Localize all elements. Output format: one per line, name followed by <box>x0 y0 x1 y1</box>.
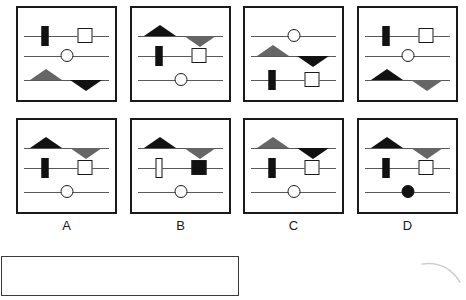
faint-curve-mark <box>420 252 466 298</box>
slider-handle[interactable] <box>383 168 390 178</box>
triangle-up-black-handle-icon[interactable] <box>371 137 403 148</box>
triangle-up-gray-handle-icon[interactable] <box>257 45 289 56</box>
triangle-up-black-handle-icon[interactable] <box>371 69 403 80</box>
slider-track[interactable] <box>251 80 336 81</box>
bar-black-handle-icon[interactable] <box>42 26 49 46</box>
bar-black-handle-icon[interactable] <box>269 70 276 90</box>
panel-content <box>245 8 342 100</box>
slider-handle[interactable] <box>184 148 216 159</box>
slider-handle[interactable] <box>156 168 163 178</box>
triangle-up-gray-handle-icon[interactable] <box>257 137 289 148</box>
slider-track[interactable] <box>365 36 450 37</box>
circle-white-handle-icon[interactable] <box>287 185 300 198</box>
slider-handle[interactable] <box>297 56 329 67</box>
triangle-down-gray-handle-icon[interactable] <box>411 80 443 91</box>
square-white-handle-icon[interactable] <box>419 28 434 43</box>
slider-handle[interactable] <box>60 192 73 199</box>
square-white-handle-icon[interactable] <box>192 48 207 63</box>
triangle-up-gray-handle-icon[interactable] <box>30 69 62 80</box>
slider-handle[interactable] <box>383 36 390 46</box>
triangle-down-gray-handle-icon[interactable] <box>184 148 216 159</box>
option-label-b: B <box>130 218 231 233</box>
bar-white-handle-icon[interactable] <box>156 158 163 178</box>
slider-handle[interactable] <box>305 168 320 176</box>
slider-handle[interactable] <box>78 36 93 44</box>
slider-handle[interactable] <box>287 192 300 199</box>
slider-handle[interactable] <box>401 192 414 199</box>
square-white-handle-icon[interactable] <box>305 160 320 175</box>
triangle-down-black-handle-icon[interactable] <box>297 148 329 159</box>
triangle-down-gray-handle-icon[interactable] <box>70 148 102 159</box>
slider-track[interactable] <box>365 168 450 169</box>
square-black-handle-icon[interactable] <box>192 160 207 175</box>
slider-handle[interactable] <box>156 56 163 66</box>
triangle-up-black-handle-icon[interactable] <box>144 25 176 36</box>
slider-track[interactable] <box>24 36 109 37</box>
slider-handle[interactable] <box>78 168 93 176</box>
square-white-handle-icon[interactable] <box>419 160 434 175</box>
option-panel-a[interactable] <box>16 118 117 214</box>
triangle-down-gray-handle-icon[interactable] <box>411 148 443 159</box>
answer-entry-box[interactable] <box>1 256 239 296</box>
slider-handle[interactable] <box>419 36 434 44</box>
stimulus-panel-4[interactable] <box>357 6 458 102</box>
stimulus-panel-1[interactable] <box>16 6 117 102</box>
square-white-handle-icon[interactable] <box>78 28 93 43</box>
circle-white-handle-icon[interactable] <box>60 185 73 198</box>
slider-handle[interactable] <box>184 36 216 47</box>
panel-content <box>359 8 456 100</box>
slider-handle[interactable] <box>192 56 207 64</box>
option-label-c: C <box>243 218 344 233</box>
slider-handle[interactable] <box>401 56 414 63</box>
slider-handle[interactable] <box>192 168 207 176</box>
triangle-down-black-handle-icon[interactable] <box>297 56 329 67</box>
bar-black-handle-icon[interactable] <box>156 46 163 66</box>
bar-black-handle-icon[interactable] <box>269 158 276 178</box>
option-panel-d[interactable] <box>357 118 458 214</box>
option-label-d: D <box>357 218 458 233</box>
triangle-up-black-handle-icon[interactable] <box>30 137 62 148</box>
slider-handle[interactable] <box>70 80 102 91</box>
slider-handle[interactable] <box>60 56 73 63</box>
slider-handle[interactable] <box>269 80 276 90</box>
slider-handle[interactable] <box>419 168 434 176</box>
slider-handle[interactable] <box>297 148 329 159</box>
slider-track[interactable] <box>138 168 223 169</box>
triangle-up-black-handle-icon[interactable] <box>144 137 176 148</box>
bar-black-handle-icon[interactable] <box>42 158 49 178</box>
slider-handle[interactable] <box>411 148 443 159</box>
slider-handle[interactable] <box>174 192 187 199</box>
slider-handle[interactable] <box>411 80 443 91</box>
circle-white-handle-icon[interactable] <box>60 49 73 62</box>
triangle-down-gray-handle-icon[interactable] <box>184 36 216 47</box>
square-white-handle-icon[interactable] <box>78 160 93 175</box>
slider-handle[interactable] <box>42 168 49 178</box>
panel-content <box>18 120 115 212</box>
circle-black-handle-icon[interactable] <box>401 185 414 198</box>
slider-handle[interactable] <box>287 36 300 43</box>
bar-black-handle-icon[interactable] <box>383 26 390 46</box>
slider-handle[interactable] <box>269 168 276 178</box>
circle-white-handle-icon[interactable] <box>174 185 187 198</box>
panel-content <box>132 8 229 100</box>
panel-content <box>132 120 229 212</box>
stimulus-panel-3[interactable] <box>243 6 344 102</box>
slider-track[interactable] <box>251 168 336 169</box>
panel-content <box>245 120 342 212</box>
stimulus-panel-2[interactable] <box>130 6 231 102</box>
circle-white-handle-icon[interactable] <box>401 49 414 62</box>
triangle-down-black-handle-icon[interactable] <box>70 80 102 91</box>
slider-handle[interactable] <box>174 80 187 87</box>
circle-white-handle-icon[interactable] <box>174 73 187 86</box>
slider-track[interactable] <box>24 168 109 169</box>
panel-content <box>359 120 456 212</box>
bar-black-handle-icon[interactable] <box>383 158 390 178</box>
option-panel-c[interactable] <box>243 118 344 214</box>
slider-track[interactable] <box>138 56 223 57</box>
slider-handle[interactable] <box>42 36 49 46</box>
option-panel-b[interactable] <box>130 118 231 214</box>
circle-white-handle-icon[interactable] <box>287 29 300 42</box>
slider-handle[interactable] <box>70 148 102 159</box>
slider-handle[interactable] <box>305 80 320 88</box>
square-white-handle-icon[interactable] <box>305 72 320 87</box>
